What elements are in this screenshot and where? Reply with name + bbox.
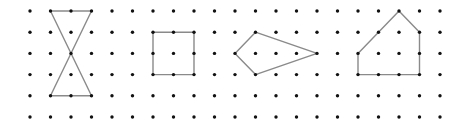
grid-dot (131, 31, 134, 34)
grid-dot (274, 115, 277, 118)
grid-dot (131, 9, 134, 12)
grid-dot (49, 9, 52, 12)
grid-dot (356, 9, 359, 12)
grid-dot (397, 31, 400, 34)
grid-dot (377, 94, 380, 97)
grid-dot (213, 52, 216, 55)
grid-dot (295, 31, 298, 34)
grid-dot (274, 52, 277, 55)
grid-dot (28, 94, 31, 97)
grid-dot (69, 94, 72, 97)
grid-dot (69, 73, 72, 76)
grid-dot (192, 9, 195, 12)
grid-dot (213, 115, 216, 118)
grid-dot (315, 52, 318, 55)
grid-dot (295, 73, 298, 76)
grid-dot (233, 94, 236, 97)
grid-dot (233, 9, 236, 12)
grid-dot (274, 9, 277, 12)
grid-dot (295, 94, 298, 97)
grid-dot (356, 31, 359, 34)
grid-dot (397, 115, 400, 118)
grid-dot (438, 73, 441, 76)
grid-dot (336, 31, 339, 34)
grid-dot (336, 9, 339, 12)
grid-dot (397, 94, 400, 97)
grid-dot (315, 94, 318, 97)
grid-dot (418, 52, 421, 55)
grid-dot (418, 115, 421, 118)
grid-dot (295, 115, 298, 118)
grid-dot (397, 9, 400, 12)
grid-dot (110, 115, 113, 118)
grid-dot (90, 94, 93, 97)
grid-dot (69, 9, 72, 12)
grid-dot (295, 52, 298, 55)
grid-dot (397, 52, 400, 55)
grid-dot (131, 52, 134, 55)
grid-dot (213, 73, 216, 76)
grid-dot (110, 31, 113, 34)
grid-dot (233, 31, 236, 34)
grid-dot (192, 31, 195, 34)
grid-dot (49, 73, 52, 76)
dot-grid (28, 9, 441, 118)
grid-dot (254, 94, 257, 97)
grid-dot (233, 52, 236, 55)
grid-dot (151, 94, 154, 97)
grid-dot (418, 31, 421, 34)
grid-dot (90, 115, 93, 118)
grid-dot (151, 9, 154, 12)
grid-dot (213, 9, 216, 12)
grid-dot (110, 52, 113, 55)
grid-dot (151, 73, 154, 76)
grid-dot (49, 115, 52, 118)
grid-dot (397, 73, 400, 76)
grid-dot (131, 115, 134, 118)
grid-dot (377, 52, 380, 55)
grid-dot (172, 73, 175, 76)
grid-dot (110, 94, 113, 97)
grid-dot (438, 94, 441, 97)
grid-dot (49, 52, 52, 55)
grid-dot (418, 73, 421, 76)
grid-dot (315, 73, 318, 76)
grid-dot (192, 115, 195, 118)
grid-dot (356, 73, 359, 76)
grid-dot (438, 115, 441, 118)
grid-dot (69, 52, 72, 55)
grid-dot (172, 52, 175, 55)
grid-dot (438, 52, 441, 55)
grid-dot (315, 31, 318, 34)
grid-dot (336, 73, 339, 76)
grid-dot (356, 94, 359, 97)
grid-dot (69, 115, 72, 118)
grid-dot (49, 31, 52, 34)
grid-dot (28, 115, 31, 118)
grid-dot (28, 52, 31, 55)
grid-dot (172, 115, 175, 118)
grid-dot (336, 115, 339, 118)
grid-dot (172, 9, 175, 12)
grid-dot (151, 31, 154, 34)
grid-dot (172, 31, 175, 34)
grid-dot (110, 73, 113, 76)
grid-dot (274, 31, 277, 34)
grid-dot (131, 73, 134, 76)
grid-dot (295, 9, 298, 12)
grid-dot (336, 94, 339, 97)
grid-dot (377, 31, 380, 34)
grid-dot (356, 52, 359, 55)
grid-dot (90, 52, 93, 55)
grid-dot (28, 31, 31, 34)
grid-dot (90, 31, 93, 34)
grid-dot (192, 94, 195, 97)
grid-dot (377, 115, 380, 118)
grid-dot (336, 52, 339, 55)
dot-grid-diagram (0, 0, 470, 124)
grid-dot (254, 31, 257, 34)
grid-dot (438, 31, 441, 34)
grid-dot (192, 73, 195, 76)
grid-dot (315, 115, 318, 118)
grid-dot (213, 94, 216, 97)
